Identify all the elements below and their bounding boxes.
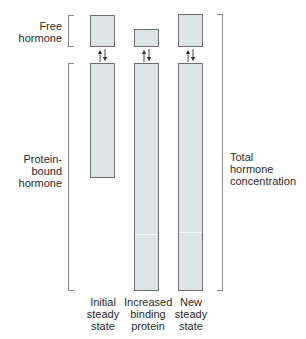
col1-equilibrium-arrow-icon [100,49,105,62]
col3-label-line1: New [170,296,212,308]
total-hormone-label: Total hormone concentration [230,151,306,187]
col2-label: Increased binding protein [124,296,172,332]
total-label-line1: Total [230,151,306,163]
total-hormone-bracket [217,14,223,291]
col3-label-line2: steady [170,308,212,320]
col1-label-line1: Initial [82,296,124,308]
total-label-line3: concentration [230,175,306,187]
col3-equilibrium-arrow-icon [188,49,193,62]
col2-equilibrium-arrow-icon [144,49,149,62]
col1-label-line3: state [82,320,124,332]
col2-label-line2: binding [124,308,172,320]
col2-label-line1: Increased [124,296,172,308]
col2-label-line3: protein [124,320,172,332]
col1-label-line2: steady [82,308,124,320]
col3-label-line3: state [170,320,212,332]
col1-label: Initial steady state [82,296,124,332]
total-label-line2: hormone [230,163,306,175]
col3-label: New steady state [170,296,212,332]
